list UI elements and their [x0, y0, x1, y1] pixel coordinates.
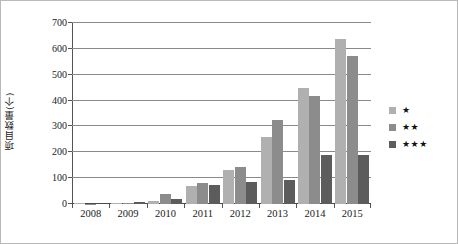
- bar-2015-series-2[interactable]: [347, 56, 358, 204]
- bar-2008-series-1[interactable]: [74, 203, 85, 204]
- bar-chart-figure: 项目数量(个) 0100200300400500600700 200820092…: [0, 0, 458, 244]
- x-tick-label-2015: 2015: [332, 208, 372, 219]
- bar-2011-series-1[interactable]: [186, 186, 197, 204]
- bar-2015-series-1[interactable]: [335, 39, 346, 204]
- x-tick-mark-end: [370, 204, 371, 208]
- x-tick-label-2012: 2012: [220, 208, 260, 219]
- bar-2010-series-3[interactable]: [171, 199, 182, 204]
- bar-2012-series-3[interactable]: [246, 182, 257, 204]
- bar-2013-series-1[interactable]: [261, 137, 272, 204]
- x-tick-label-2008: 2008: [71, 208, 111, 219]
- bar-2011-series-3[interactable]: [209, 185, 220, 204]
- legend-swatch-2: [389, 124, 396, 131]
- x-tick-mark-3: [184, 204, 185, 208]
- y-tick-label-400: 400: [41, 96, 67, 106]
- bar-2010-series-2[interactable]: [160, 194, 171, 204]
- y-tick-label-100: 100: [41, 173, 67, 183]
- bar-2014-series-2[interactable]: [309, 96, 320, 204]
- bar-2012-series-2[interactable]: [235, 167, 246, 204]
- legend-item-1[interactable]: ★: [389, 102, 455, 119]
- x-tick-mark-0: [72, 204, 73, 208]
- legend-swatch-3: [389, 141, 396, 148]
- x-tick-label-2013: 2013: [258, 208, 298, 219]
- bar-group-2010: [148, 23, 182, 204]
- x-tick-mark-5: [259, 204, 260, 208]
- y-axis-tick-labels: 0100200300400500600700: [37, 23, 67, 204]
- y-tick-label-600: 600: [41, 44, 67, 54]
- x-axis-tick-labels: 20082009201020112012201320142015: [72, 208, 371, 224]
- bar-group-2009: [111, 23, 145, 204]
- bar-2013-series-2[interactable]: [272, 120, 283, 204]
- legend-label-2: ★★: [402, 123, 419, 132]
- bar-2010-series-1[interactable]: [148, 201, 159, 204]
- y-tick-label-500: 500: [41, 70, 67, 80]
- bar-group-2015: [335, 23, 369, 204]
- bar-2014-series-3[interactable]: [321, 155, 332, 204]
- x-tick-label-2009: 2009: [108, 208, 148, 219]
- bar-2011-series-2[interactable]: [197, 183, 208, 204]
- bar-group-2014: [298, 23, 332, 204]
- x-tick-mark-1: [109, 204, 110, 208]
- x-tick-mark-2: [147, 204, 148, 208]
- bar-group-2012: [223, 23, 257, 204]
- x-tick-mark-4: [222, 204, 223, 208]
- bar-2009-series-1[interactable]: [111, 203, 122, 204]
- bar-2009-series-3[interactable]: [134, 202, 145, 204]
- legend-item-3[interactable]: ★★★: [389, 136, 455, 153]
- bar-group-2008: [74, 23, 108, 204]
- legend-label-3: ★★★: [402, 140, 428, 149]
- x-tick-label-2011: 2011: [183, 208, 223, 219]
- x-tick-label-2010: 2010: [145, 208, 185, 219]
- bar-2013-series-3[interactable]: [284, 180, 295, 204]
- bar-2014-series-1[interactable]: [298, 88, 309, 204]
- bar-2015-series-3[interactable]: [358, 155, 369, 204]
- bar-group-2011: [186, 23, 220, 204]
- bar-2009-series-2[interactable]: [123, 203, 134, 204]
- legend-swatch-1: [389, 107, 396, 114]
- y-axis-title: 项目数量(个): [3, 61, 19, 181]
- legend-label-1: ★: [402, 106, 411, 115]
- y-tick-label-0: 0: [41, 199, 67, 209]
- x-tick-mark-7: [334, 204, 335, 208]
- y-tick-label-300: 300: [41, 121, 67, 131]
- chart-legend: ★★★★★★: [389, 102, 455, 153]
- x-tick-label-2014: 2014: [295, 208, 335, 219]
- x-tick-mark-6: [296, 204, 297, 208]
- y-tick-label-200: 200: [41, 147, 67, 157]
- bar-group-2013: [261, 23, 295, 204]
- legend-item-2[interactable]: ★★: [389, 119, 455, 136]
- plot-area: [72, 23, 371, 204]
- y-tick-label-700: 700: [41, 18, 67, 28]
- bar-2012-series-1[interactable]: [223, 170, 234, 204]
